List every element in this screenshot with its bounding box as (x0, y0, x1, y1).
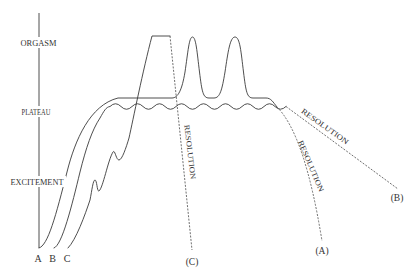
response-cycle-diagram: ORGASM PLATEAU EXCITEMENT A B C RESOLUTI… (0, 0, 415, 279)
phase-label-orgasm: ORGASM (19, 37, 58, 48)
curve-c-start-label: C (64, 253, 71, 264)
plateau-label: PLATEAU (22, 107, 51, 117)
curve-b (54, 104, 286, 248)
curve-b-resolution-label: RESOLUTION (300, 107, 351, 147)
curve-a-start-label: A (34, 253, 42, 264)
curve-c (68, 36, 170, 248)
excitement-label: EXCITEMENT (11, 177, 64, 187)
curve-c-resolution-label: RESOLUTION (182, 124, 198, 180)
curve-a (39, 37, 277, 248)
phase-label-plateau: PLATEAU (20, 106, 53, 117)
phase-label-excitement: EXCITEMENT (8, 176, 66, 187)
curve-b-end-label: (B) (391, 193, 404, 204)
orgasm-label: ORGASM (21, 38, 57, 48)
curve-c-end-label: (C) (186, 257, 199, 268)
curve-b-start-label: B (49, 253, 56, 264)
diagram-svg: ORGASM PLATEAU EXCITEMENT A B C RESOLUTI… (0, 0, 415, 279)
curve-a-end-label: (A) (315, 246, 328, 257)
